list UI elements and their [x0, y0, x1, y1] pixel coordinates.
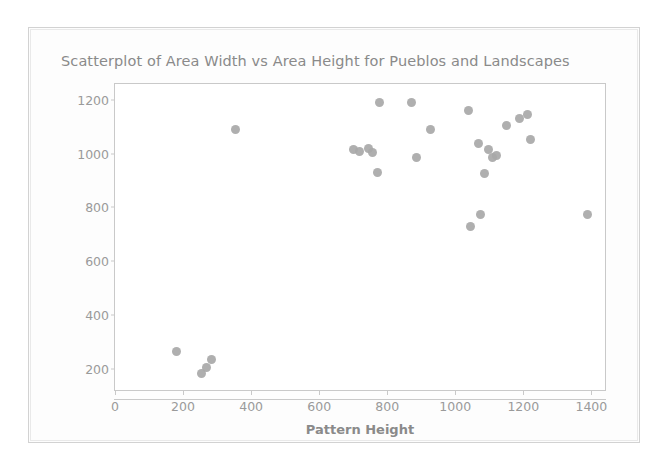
y-axis-tick-label: 600: [85, 254, 109, 269]
scatter-point: [202, 363, 211, 372]
x-axis-tick-label: 600: [307, 399, 331, 414]
scatter-point: [523, 110, 532, 119]
x-axis-tick-mark: [591, 391, 592, 395]
scatter-point: [426, 125, 435, 134]
x-axis-tick-label: 0: [111, 399, 119, 414]
x-axis-tick-mark: [115, 391, 116, 395]
scatter-point: [373, 168, 382, 177]
scatter-point: [207, 355, 216, 364]
y-axis-tick-mark: [111, 207, 115, 208]
y-axis-tick-label: 1200: [77, 93, 109, 108]
x-axis-tick-mark: [387, 391, 388, 395]
x-axis-tick-mark: [251, 391, 252, 395]
scatter-point: [407, 98, 416, 107]
scatter-point: [474, 139, 483, 148]
x-axis-tick-label: 1200: [507, 399, 539, 414]
scatter-point: [231, 125, 240, 134]
x-axis-tick-mark: [183, 391, 184, 395]
x-axis-tick-mark: [523, 391, 524, 395]
scatter-point: [476, 210, 485, 219]
x-axis-tick-label: 1000: [439, 399, 471, 414]
y-axis-tick-mark: [111, 261, 115, 262]
x-axis-label: Pattern Height: [114, 422, 606, 437]
scatter-point: [492, 151, 501, 160]
figure-panel: Scatterplot of Area Width vs Area Height…: [28, 27, 640, 443]
scatter-point: [172, 347, 181, 356]
plot-area: 2004006008001000120002004006008001000120…: [114, 83, 606, 391]
y-axis-tick-label: 200: [85, 361, 109, 376]
scatter-point: [375, 98, 384, 107]
scatter-point: [368, 148, 377, 157]
x-axis-tick-label: 400: [239, 399, 263, 414]
y-axis-tick-mark: [111, 153, 115, 154]
x-axis-tick-mark: [455, 391, 456, 395]
scatter-point: [412, 153, 421, 162]
scatter-point: [502, 121, 511, 130]
x-axis-tick-label: 200: [171, 399, 195, 414]
scatter-point: [480, 169, 489, 178]
x-axis-tick-mark: [319, 391, 320, 395]
scatter-point: [464, 106, 473, 115]
x-axis-tick-label: 1400: [575, 399, 607, 414]
x-axis-line: [114, 399, 606, 400]
y-axis-tick-label: 1000: [77, 146, 109, 161]
y-axis-tick-label: 400: [85, 307, 109, 322]
scatter-point: [355, 147, 364, 156]
scatter-point: [583, 210, 592, 219]
y-axis-tick-mark: [111, 100, 115, 101]
x-axis-tick-label: 800: [375, 399, 399, 414]
y-axis-tick-label: 800: [85, 200, 109, 215]
chart-title: Scatterplot of Area Width vs Area Height…: [61, 53, 570, 69]
y-axis-tick-mark: [111, 314, 115, 315]
y-axis-tick-mark: [111, 368, 115, 369]
scatter-point: [526, 135, 535, 144]
scatter-point: [466, 222, 475, 231]
